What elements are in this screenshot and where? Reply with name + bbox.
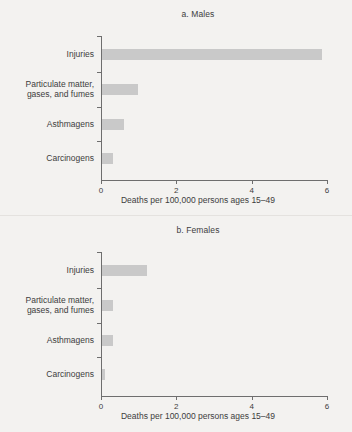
- y-axis-tick: [97, 107, 101, 108]
- x-axis-tick: [252, 396, 253, 400]
- x-axis-tick: [101, 396, 102, 400]
- x-axis-tick-label: 0: [99, 402, 103, 411]
- category-label: Asthmagens: [47, 119, 94, 130]
- x-axis-tick: [176, 396, 177, 400]
- figure-two-panel-bar-charts: a. Males 0246InjuriesParticulate matter,…: [0, 0, 352, 432]
- panel-a-x-axis-title: Deaths per 100,000 persons ages 15–49: [0, 195, 352, 205]
- bar: [102, 153, 113, 164]
- y-axis-tick: [97, 72, 101, 73]
- category-label: Carcinogens: [46, 369, 94, 380]
- category-label: Injuries: [67, 49, 94, 60]
- category-label-line: Particulate matter,: [25, 295, 94, 306]
- y-axis-tick: [97, 357, 101, 358]
- bar: [102, 300, 113, 311]
- category-label-line: Particulate matter,: [25, 79, 94, 90]
- panel-a-title: a. Males: [0, 9, 352, 19]
- chart-panel-males: a. Males 0246InjuriesParticulate matter,…: [0, 0, 352, 216]
- bar: [102, 119, 124, 130]
- y-axis-tick: [97, 323, 101, 324]
- category-label: Asthmagens: [47, 335, 94, 346]
- category-label-line: gases, and fumes: [25, 305, 94, 316]
- chart-panel-females: b. Females 0246InjuriesParticulate matte…: [0, 216, 352, 432]
- x-axis-tick: [101, 180, 102, 184]
- category-label-line: Asthmagens: [47, 119, 94, 130]
- y-axis-tick: [97, 252, 101, 253]
- plot-area-females: 0246InjuriesParticulate matter,gases, an…: [101, 252, 327, 396]
- x-axis-tick-label: 6: [325, 402, 329, 411]
- x-axis-tick: [327, 180, 328, 184]
- category-label-line: Injuries: [67, 49, 94, 60]
- y-axis-tick: [97, 288, 101, 289]
- bar: [102, 369, 105, 380]
- x-axis-tick-label: 2: [174, 402, 178, 411]
- x-axis-tick-label: 2: [174, 186, 178, 195]
- y-axis-tick: [97, 36, 101, 37]
- category-label: Particulate matter,gases, and fumes: [25, 295, 94, 316]
- bar: [102, 335, 113, 346]
- bar: [102, 265, 147, 276]
- x-axis-tick: [176, 180, 177, 184]
- panel-b-x-axis-title: Deaths per 100,000 persons ages 15–49: [0, 411, 352, 421]
- category-label: Injuries: [67, 265, 94, 276]
- category-label-line: Carcinogens: [46, 153, 94, 164]
- bar: [102, 84, 138, 95]
- x-axis-line: [101, 180, 327, 181]
- category-label-line: Injuries: [67, 265, 94, 276]
- category-label-line: Carcinogens: [46, 369, 94, 380]
- y-axis-tick: [97, 141, 101, 142]
- bar: [102, 49, 322, 60]
- category-label: Carcinogens: [46, 153, 94, 164]
- x-axis-line: [101, 396, 327, 397]
- category-label-line: Asthmagens: [47, 335, 94, 346]
- x-axis-tick-label: 4: [249, 402, 253, 411]
- x-axis-tick: [252, 180, 253, 184]
- x-axis-tick-label: 4: [249, 186, 253, 195]
- plot-area-males: 0246InjuriesParticulate matter,gases, an…: [101, 36, 327, 180]
- x-axis-tick: [327, 396, 328, 400]
- x-axis-tick-label: 0: [99, 186, 103, 195]
- x-axis-tick-label: 6: [325, 186, 329, 195]
- panel-b-title: b. Females: [0, 225, 352, 235]
- category-label: Particulate matter,gases, and fumes: [25, 79, 94, 100]
- category-label-line: gases, and fumes: [25, 89, 94, 100]
